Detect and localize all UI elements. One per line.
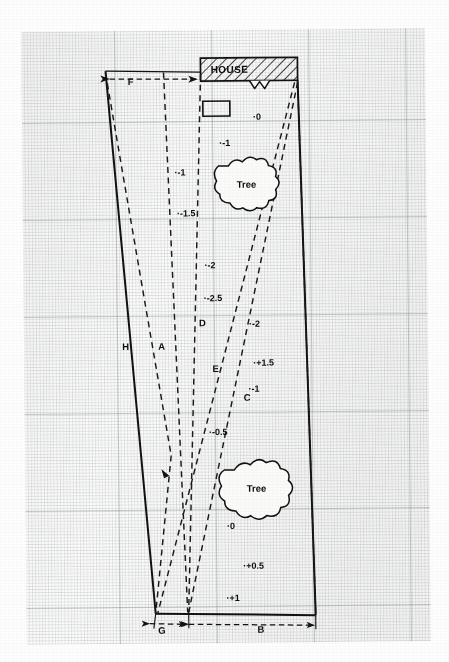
point-label-E: E bbox=[212, 363, 218, 374]
dimension-line-G bbox=[150, 623, 187, 624]
sight-line-E bbox=[153, 82, 300, 613]
boundary-left-line bbox=[105, 71, 155, 614]
dimension-line-B bbox=[189, 623, 315, 626]
dimension-line-F bbox=[110, 78, 198, 80]
left-tick-mark bbox=[162, 471, 168, 478]
tree-lower-label: Tree bbox=[247, 483, 267, 494]
dimension-label-B: B bbox=[257, 624, 264, 635]
figure-canvas: HOUSE Tree Tree F G B H A D E C ·0 ·-1 ·… bbox=[0, 0, 449, 662]
sight-line-A bbox=[164, 72, 188, 612]
point-label-D: D bbox=[199, 317, 206, 328]
elevation-label-neg2p5: ·-2.5 bbox=[204, 293, 223, 303]
boundary-top-line bbox=[105, 70, 200, 73]
elevation-label-neg1-b: ·-1 bbox=[174, 167, 185, 177]
drawing-layer: HOUSE Tree Tree F G B H A D E C ·0 ·-1 ·… bbox=[0, 0, 449, 662]
elevation-label-0-bottom: ·0 bbox=[227, 521, 235, 531]
extension-line-left bbox=[154, 614, 156, 629]
elevation-label-pos1p5: ·+1.5 bbox=[253, 358, 274, 368]
sight-line-D bbox=[184, 74, 206, 612]
boundary-bottom-line bbox=[156, 612, 316, 617]
outbuilding-rectangle bbox=[203, 101, 230, 116]
elevation-label-pos0p5: ·+0.5 bbox=[243, 561, 264, 571]
elevation-label-pos1: ·+1 bbox=[227, 593, 240, 603]
elevation-label-neg2-a: ·-2 bbox=[204, 260, 215, 270]
point-label-H: H bbox=[122, 341, 129, 352]
dimension-lines bbox=[110, 77, 316, 631]
house-label: HOUSE bbox=[211, 64, 249, 75]
sight-line-H-upper bbox=[106, 73, 172, 457]
house-notch-zigzag bbox=[250, 81, 270, 89]
tree-upper-label: Tree bbox=[237, 179, 257, 190]
sight-line-H-lower bbox=[154, 456, 173, 614]
elevation-label-neg0p5: ·-0.5 bbox=[209, 427, 228, 437]
elevation-label-neg2-b: ·-2 bbox=[249, 319, 260, 329]
point-label-A: A bbox=[158, 341, 165, 352]
elevation-label-neg1-c: ·-1 bbox=[249, 384, 260, 394]
property-boundary bbox=[105, 69, 315, 617]
elevation-label-0-top: ·0 bbox=[253, 112, 261, 122]
dimension-label-G: G bbox=[158, 625, 165, 636]
elevation-label-neg1p5: ·-1.5 bbox=[177, 208, 196, 218]
dimension-label-F: F bbox=[128, 76, 134, 87]
elevation-label-neg1-a: ·-1 bbox=[219, 138, 230, 148]
sight-lines bbox=[106, 71, 316, 615]
